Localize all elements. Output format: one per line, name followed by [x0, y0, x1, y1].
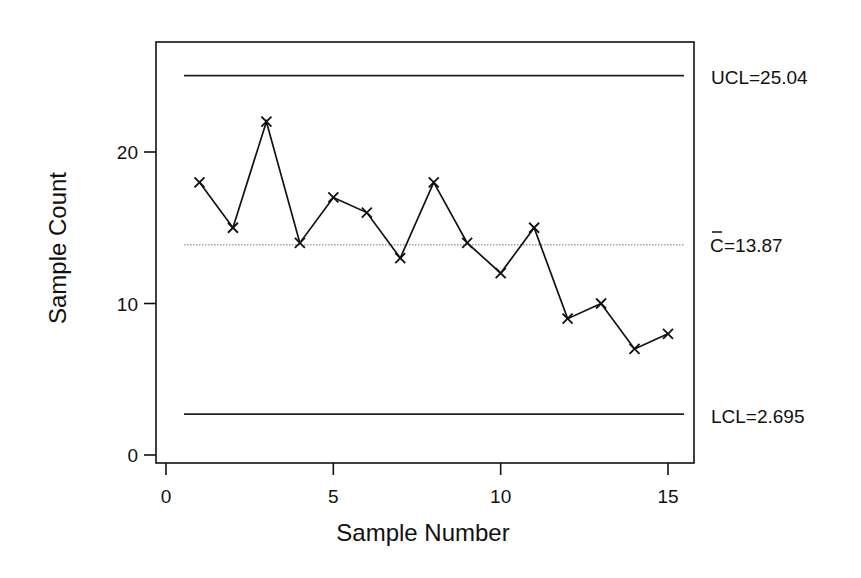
x-tick-label: 15 [657, 486, 678, 507]
y-tick-label: 10 [117, 294, 138, 315]
data-markers [194, 117, 673, 354]
x-marker-icon [462, 238, 472, 248]
x-marker-icon [429, 177, 439, 187]
y-axis-title: Sample Count [44, 172, 71, 324]
center-label-symbol: C [710, 235, 724, 256]
y-tick-label: 0 [127, 445, 138, 466]
x-marker-icon [261, 117, 271, 127]
x-axis-title: Sample Number [336, 519, 509, 546]
x-tick-label: 10 [490, 486, 511, 507]
x-marker-icon [395, 253, 405, 263]
x-marker-icon [563, 314, 573, 324]
x-marker-icon [295, 238, 305, 248]
y-tick-label: 20 [117, 142, 138, 163]
x-marker-icon [362, 208, 372, 218]
center-label: C =13.87 [710, 232, 783, 256]
ucl-label: UCL=25.04 [711, 67, 808, 88]
y-axis: 01020 [117, 142, 156, 466]
x-marker-icon [328, 192, 338, 202]
x-marker-icon [663, 329, 673, 339]
x-marker-icon [630, 344, 640, 354]
lcl-label: LCL=2.695 [711, 406, 805, 427]
x-marker-icon [194, 177, 204, 187]
x-axis: 051015 [161, 463, 679, 507]
x-marker-icon [228, 223, 238, 233]
x-marker-icon [496, 268, 506, 278]
x-tick-label: 0 [161, 486, 172, 507]
x-tick-label: 5 [328, 486, 339, 507]
x-marker-icon [529, 223, 539, 233]
data-line [199, 122, 668, 349]
control-chart: 01020 051015 UCL=25.04 C =13.87 LCL=2.69… [0, 0, 861, 578]
center-label-value: =13.87 [724, 235, 783, 256]
x-marker-icon [596, 299, 606, 309]
plot-frame [156, 42, 694, 463]
